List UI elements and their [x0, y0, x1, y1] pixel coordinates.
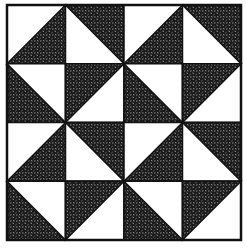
quilt-cell — [7, 123, 66, 182]
quilt-cell — [124, 64, 183, 123]
quilt-cell — [7, 64, 66, 123]
quilt-cell — [183, 64, 242, 123]
quilt-cell — [66, 64, 125, 123]
quilt-cell — [183, 123, 242, 182]
quilt-cell — [183, 5, 242, 64]
quilt-cell — [66, 5, 125, 64]
quilt-cell — [7, 5, 66, 64]
quilt-cell — [66, 123, 125, 182]
quilt-pattern — [0, 0, 247, 251]
quilt-cell — [7, 181, 66, 240]
quilt-cell — [124, 181, 183, 240]
quilt-cell — [183, 181, 242, 240]
quilt-cells — [7, 5, 241, 240]
quilt-cell — [66, 181, 125, 240]
quilt-cell — [124, 123, 183, 182]
quilt-cell — [124, 5, 183, 64]
